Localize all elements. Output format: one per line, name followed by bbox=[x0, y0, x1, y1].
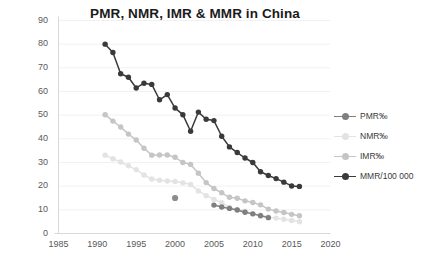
y-axis-tick-label: 60 bbox=[22, 86, 48, 96]
series-marker bbox=[180, 160, 185, 165]
series-marker bbox=[227, 206, 232, 211]
series-marker bbox=[235, 150, 240, 155]
outlier-marker bbox=[172, 195, 178, 201]
series-marker bbox=[242, 198, 247, 203]
series-marker bbox=[281, 217, 286, 222]
series-marker bbox=[297, 219, 302, 224]
series-marker bbox=[266, 206, 271, 211]
series-marker bbox=[102, 41, 107, 46]
series-marker bbox=[250, 160, 255, 165]
legend-item[interactable]: IMR‰ bbox=[334, 146, 430, 166]
series-marker bbox=[126, 163, 131, 168]
series-marker bbox=[157, 152, 162, 157]
series-marker bbox=[273, 215, 278, 220]
series-marker bbox=[157, 97, 162, 102]
series-marker bbox=[196, 170, 201, 175]
x-axis-tick-label: 2010 bbox=[233, 239, 273, 249]
series-marker bbox=[258, 169, 263, 174]
y-axis-tick-label: 20 bbox=[22, 180, 48, 190]
series-marker bbox=[250, 211, 255, 216]
series-marker bbox=[203, 180, 208, 185]
x-axis-tick-label: 2005 bbox=[194, 239, 234, 249]
series-marker bbox=[219, 204, 224, 209]
series-marker bbox=[227, 144, 232, 149]
legend-item[interactable]: MMR/100 000 bbox=[334, 166, 430, 186]
series-marker bbox=[258, 202, 263, 207]
series-marker bbox=[289, 212, 294, 217]
chart-legend: PMR‰NMR‰IMR‰MMR/100 000 bbox=[334, 106, 430, 186]
series-marker bbox=[196, 109, 201, 114]
series-marker bbox=[211, 118, 216, 123]
series-marker bbox=[149, 176, 154, 181]
series-marker bbox=[289, 183, 294, 188]
y-axis-tick-label: 80 bbox=[22, 38, 48, 48]
y-axis-tick-label: 30 bbox=[22, 157, 48, 167]
series-marker bbox=[165, 178, 170, 183]
series-marker bbox=[118, 124, 123, 129]
legend-dot bbox=[342, 133, 349, 140]
series-marker bbox=[273, 176, 278, 181]
legend-label: IMR‰ bbox=[360, 151, 384, 161]
x-axis-tick-label: 1990 bbox=[77, 239, 117, 249]
series-marker bbox=[196, 188, 201, 193]
series-marker bbox=[281, 210, 286, 215]
series-marker bbox=[172, 105, 177, 110]
series-marker bbox=[211, 202, 216, 207]
x-axis-tick-label: 2000 bbox=[155, 239, 195, 249]
series-marker bbox=[165, 92, 170, 97]
x-axis-tick-label: 2020 bbox=[311, 239, 351, 249]
series-marker bbox=[235, 207, 240, 212]
series-marker bbox=[102, 112, 107, 117]
series-marker bbox=[289, 218, 294, 223]
series-marker bbox=[110, 156, 115, 161]
series-line bbox=[105, 155, 299, 222]
y-axis-tick-label: 50 bbox=[22, 109, 48, 119]
series-marker bbox=[180, 180, 185, 185]
series-marker bbox=[211, 186, 216, 191]
series-marker bbox=[126, 75, 131, 80]
series-marker bbox=[157, 178, 162, 183]
x-axis-tick-label: 2015 bbox=[272, 239, 312, 249]
series-marker bbox=[134, 167, 139, 172]
y-axis-tick-label: 90 bbox=[22, 15, 48, 25]
chart-container: PMR, NMR, IMR & MMR in China 01020304050… bbox=[0, 0, 431, 267]
series-marker bbox=[172, 179, 177, 184]
x-axis-tick-label: 1995 bbox=[116, 239, 156, 249]
series-marker bbox=[141, 146, 146, 151]
legend-item[interactable]: PMR‰ bbox=[334, 106, 430, 126]
series-marker bbox=[118, 71, 123, 76]
series-marker bbox=[203, 193, 208, 198]
series-marker bbox=[219, 134, 224, 139]
series-marker bbox=[211, 197, 216, 202]
series-marker bbox=[126, 131, 131, 136]
series-marker bbox=[188, 162, 193, 167]
legend-swatch-icon bbox=[334, 150, 356, 162]
series-marker bbox=[242, 155, 247, 160]
legend-dot bbox=[342, 173, 349, 180]
legend-swatch-icon bbox=[334, 130, 356, 142]
legend-label: NMR‰ bbox=[360, 131, 388, 141]
series-marker bbox=[266, 173, 271, 178]
y-axis-tick-label: 0 bbox=[22, 228, 48, 238]
legend-swatch-icon bbox=[334, 170, 356, 182]
series-marker bbox=[110, 118, 115, 123]
series-marker bbox=[219, 190, 224, 195]
series-marker bbox=[110, 50, 115, 55]
legend-label: PMR‰ bbox=[360, 111, 387, 121]
series-marker bbox=[258, 213, 263, 218]
y-axis-tick-label: 70 bbox=[22, 62, 48, 72]
legend-item[interactable]: NMR‰ bbox=[334, 126, 430, 146]
series-marker bbox=[235, 196, 240, 201]
series-marker bbox=[281, 179, 286, 184]
series-marker bbox=[203, 116, 208, 121]
series-line bbox=[105, 115, 299, 216]
series-marker bbox=[297, 184, 302, 189]
legend-label: MMR/100 000 bbox=[360, 171, 413, 181]
x-axis-tick-label: 1985 bbox=[39, 239, 79, 249]
series-marker bbox=[297, 213, 302, 218]
series-marker bbox=[188, 129, 193, 134]
series-marker bbox=[102, 152, 107, 157]
series-marker bbox=[149, 152, 154, 157]
series-marker bbox=[141, 81, 146, 86]
legend-dot bbox=[342, 113, 349, 120]
